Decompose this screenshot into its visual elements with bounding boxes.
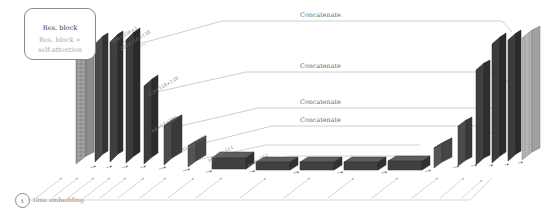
skip-rail-1 (128, 21, 512, 47)
time-embedding-bus (28, 178, 492, 200)
concatenate-label-3: Concatenate (300, 98, 341, 106)
legend-res-block-attn-label: Res. block + self-attention (25, 36, 95, 55)
bottleneck-stack (212, 152, 430, 170)
bottleneck-3 (300, 157, 342, 170)
concatenate-label-2: Concatenate (300, 62, 341, 70)
dec-slab-4 (492, 33, 506, 163)
enc-slab-1 (95, 33, 108, 162)
skip-rail-2 (152, 72, 508, 93)
dec-slab-2 (458, 117, 472, 166)
bottleneck-5 (388, 156, 430, 170)
dec-slab-1 (434, 138, 452, 168)
concatenate-label-4: Concatenate (300, 116, 341, 124)
output-image-slab (522, 26, 540, 160)
time-node: t (15, 193, 30, 208)
legend-attn-line1: Res. block + (25, 36, 95, 46)
legend-attn-line2: self-attention (25, 46, 95, 56)
bottleneck-4 (344, 157, 386, 170)
concatenate-label-1: Concatenate (300, 11, 341, 19)
diagram-canvas: Res. block Res. block + self-attention 2… (0, 0, 544, 216)
legend-box: Res. block Res. block + self-attention (24, 8, 96, 60)
dec-slab-5 (508, 30, 521, 161)
enc-slab-3 (126, 28, 140, 163)
time-embedding-caption: time embedding (33, 196, 84, 203)
dec-slab-3 (476, 60, 490, 165)
time-embedding-arrows (36, 178, 482, 198)
legend-res-block-label: Res. block (25, 24, 95, 32)
decoder-stack (434, 26, 540, 168)
skip-connection-rails (128, 21, 512, 146)
